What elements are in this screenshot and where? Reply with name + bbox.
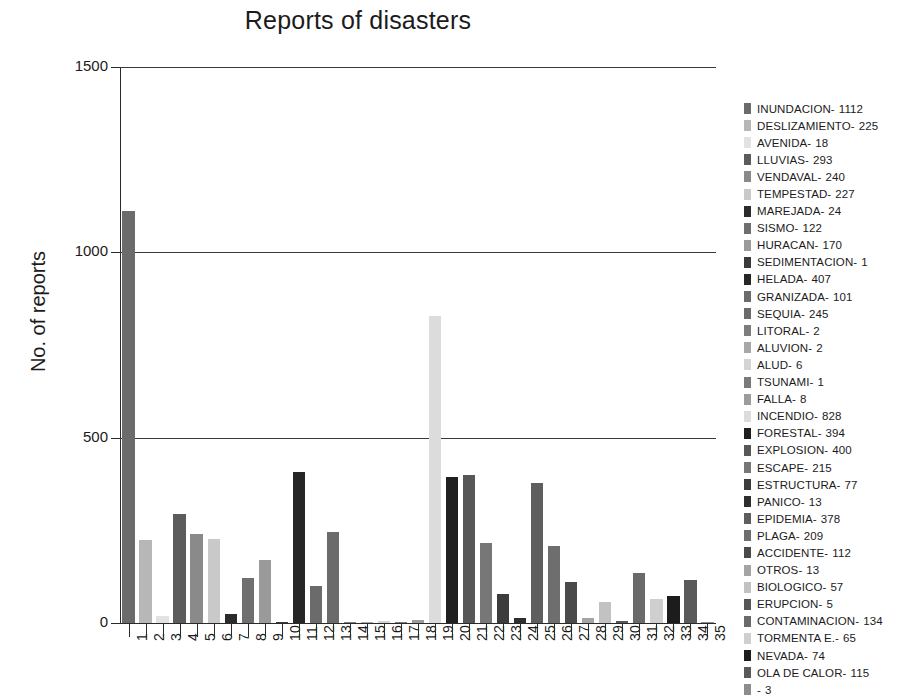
legend-value: 1112 [839, 103, 863, 115]
legend-item[interactable]: SISMO-122 [744, 220, 909, 237]
legend-swatch-icon [744, 633, 751, 644]
legend-label: VENDAVAL- [757, 171, 821, 183]
legend-label: MAREJADA- [757, 205, 824, 217]
legend-item[interactable]: EXPLOSION-400 [744, 442, 909, 459]
legend-swatch-icon [744, 103, 751, 114]
legend-item[interactable]: NEVADA-74 [744, 647, 909, 664]
x-tick-mark-15 [367, 623, 368, 637]
legend-item[interactable]: VENDAVAL-240 [744, 168, 909, 185]
legend-label: PLAGA- [757, 530, 800, 542]
x-tick-mark-2 [146, 623, 147, 637]
legend-item[interactable]: LITORAL-2 [744, 322, 909, 339]
x-tick-mark-24 [520, 623, 521, 637]
bar-13 [327, 532, 339, 623]
legend-item[interactable]: INCENDIO-828 [744, 408, 909, 425]
legend-item[interactable]: SEDIMENTACION-1 [744, 254, 909, 271]
legend-swatch-icon [744, 684, 751, 695]
legend-item[interactable]: PANICO-13 [744, 493, 909, 510]
legend-swatch-icon [744, 599, 751, 610]
legend-label: PANICO- [757, 496, 805, 508]
bar-27 [565, 582, 577, 624]
legend-item[interactable]: ESTRUCTURA-77 [744, 476, 909, 493]
x-tick-mark-20 [452, 623, 453, 637]
legend-item[interactable]: SEQUIA-245 [744, 305, 909, 322]
legend-item[interactable]: ACCIDENTE-112 [744, 544, 909, 561]
legend-label: FORESTAL- [757, 427, 822, 439]
legend-label: INUNDACION- [757, 103, 835, 115]
x-tick-label-6: 6 [219, 633, 235, 641]
legend-item[interactable]: BIOLOGICO-57 [744, 579, 909, 596]
legend-label: ALUD- [757, 359, 792, 371]
x-tick-label-29: 29 [610, 625, 626, 641]
y-tick-mark-1500 [111, 67, 120, 68]
legend-value: 240 [825, 171, 845, 183]
x-tick-mark-16 [384, 623, 385, 637]
x-tick-label-11: 11 [304, 626, 320, 641]
legend-swatch-icon [744, 565, 751, 576]
legend-swatch-icon [744, 171, 751, 182]
x-tick-label-17: 17 [406, 625, 422, 641]
y-tick-label-0: 0 [40, 613, 108, 630]
x-tick-mark-27 [571, 623, 572, 637]
legend-item[interactable]: -3 [744, 681, 909, 698]
legend-item[interactable]: HELADA-407 [744, 271, 909, 288]
x-tick-label-1: 1 [134, 633, 150, 641]
legend-item[interactable]: OLA DE CALOR-115 [744, 664, 909, 681]
x-tick-mark-23 [503, 623, 504, 637]
legend-item[interactable]: OTROS-13 [744, 562, 909, 579]
bar-34 [684, 580, 696, 623]
legend-label: SEQUIA- [757, 308, 805, 320]
legend-value: 407 [812, 273, 832, 285]
legend-item[interactable]: TEMPESTAD-227 [744, 185, 909, 202]
legend-swatch-icon [744, 325, 751, 336]
legend-item[interactable]: INUNDACION-1112 [744, 100, 909, 117]
legend-item[interactable]: LLUVIAS-293 [744, 151, 909, 168]
legend-item[interactable]: ESCAPE-215 [744, 459, 909, 476]
y-tick-mark-1000 [111, 252, 120, 253]
legend-item[interactable]: FORESTAL-394 [744, 425, 909, 442]
x-tick-mark-30 [622, 623, 623, 637]
legend-label: ACCIDENTE- [757, 547, 828, 559]
legend-swatch-icon [744, 445, 751, 456]
legend-value: 209 [804, 530, 824, 542]
legend-label: HURACAN- [757, 239, 819, 251]
legend-item[interactable]: EPIDEMIA-378 [744, 510, 909, 527]
x-tick-label-10: 10 [287, 625, 303, 641]
x-tick-mark-13 [333, 623, 334, 637]
legend-item[interactable]: TORMENTA E.-65 [744, 630, 909, 647]
legend-swatch-icon [744, 291, 751, 302]
y-tick-label-1000: 1000 [40, 242, 108, 259]
legend-swatch-icon [744, 547, 751, 558]
x-tick-mark-32 [656, 623, 657, 637]
legend-item[interactable]: GRANIZADA-101 [744, 288, 909, 305]
legend-item[interactable]: ERUPCION-5 [744, 596, 909, 613]
legend-swatch-icon [744, 308, 751, 319]
legend-label: SISMO- [757, 222, 799, 234]
legend-value: 378 [821, 513, 841, 525]
x-tick-label-35: 35 [712, 625, 728, 641]
legend-swatch-icon [744, 257, 751, 268]
legend-item[interactable]: AVENIDA-18 [744, 134, 909, 151]
x-tick-label-27: 27 [576, 625, 592, 641]
legend-value: 101 [833, 291, 853, 303]
legend-item[interactable]: CONTAMINACION-134 [744, 613, 909, 630]
legend-label: ESCAPE- [757, 462, 808, 474]
x-tick-label-33: 33 [678, 625, 694, 641]
bar-21 [463, 475, 475, 623]
legend-label: AVENIDA- [757, 137, 811, 149]
legend-item[interactable]: MAREJADA-24 [744, 203, 909, 220]
x-tick-mark-1 [129, 623, 130, 637]
legend-item[interactable]: TSUNAMI-1 [744, 374, 909, 391]
bar-22 [480, 543, 492, 623]
legend-item[interactable]: PLAGA-209 [744, 527, 909, 544]
bar-6 [208, 539, 220, 623]
x-tick-mark-33 [673, 623, 674, 637]
legend-item[interactable]: ALUVION-2 [744, 339, 909, 356]
legend-item[interactable]: ALUD-6 [744, 356, 909, 373]
legend-item[interactable]: HURACAN-170 [744, 237, 909, 254]
legend-label: OLA DE CALOR- [757, 667, 847, 679]
legend-item[interactable]: DESLIZAMIENTO-225 [744, 117, 909, 134]
x-tick-mark-7 [231, 623, 232, 637]
x-tick-label-32: 32 [661, 625, 677, 641]
legend-item[interactable]: FALLA-8 [744, 391, 909, 408]
